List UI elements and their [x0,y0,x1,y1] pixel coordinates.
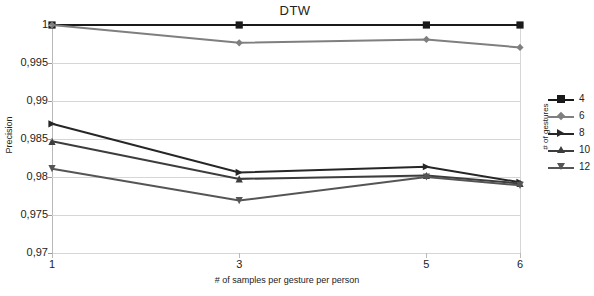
data-point-marker [48,120,55,127]
data-point-marker [516,21,523,28]
y-tick-label: 0,97 [0,246,48,258]
y-tick-mark [48,139,52,140]
plot-right-border [520,25,521,254]
x-tick-label: 6 [500,258,540,270]
series-line-6 [52,25,520,47]
legend-item-10[interactable]: 10 [548,143,594,159]
data-point-marker [236,39,243,46]
legend-item-8[interactable]: 8 [548,126,594,142]
y-tick-label: 0,995 [0,56,48,68]
data-point-marker [516,44,523,51]
y-tick-mark [48,63,52,64]
legend-label: 6 [579,110,585,121]
legend-marker [557,129,564,137]
legend-marker [557,95,565,103]
series-lines [52,25,520,254]
y-tick-label: 0,98 [0,170,48,182]
y-tick-label: 0,975 [0,208,48,220]
x-tick-label: 3 [219,258,259,270]
data-point-marker [423,36,430,43]
series-line-10 [52,141,520,183]
x-axis-title: # of samples per gesture per person [137,275,437,285]
y-axis-title: Precision [4,100,14,170]
data-point-marker [423,163,430,170]
series-line-12 [52,169,520,201]
y-tick-mark [48,25,52,26]
legend-item-6[interactable]: 6 [548,109,594,125]
legend-marker [557,112,565,120]
data-point-marker [423,21,430,28]
legend-label: 12 [579,161,590,172]
legend-label: 8 [579,127,585,138]
x-tick-mark [239,253,240,258]
x-tick-label: 5 [406,258,446,270]
legend-item-12[interactable]: 12 [548,160,594,176]
legend-marker [557,146,565,153]
x-tick-label: 1 [32,258,72,270]
x-tick-mark [426,253,427,258]
chart-title: DTW [230,3,360,18]
y-tick-mark [48,177,52,178]
legend-item-4[interactable]: 4 [548,92,594,108]
plot-area [52,25,520,253]
chart-container: DTW 10,9950,990,9850,980,9750,97 1356 # … [0,0,594,296]
x-tick-mark [52,253,53,258]
data-point-marker [236,21,243,28]
y-tick-mark [48,215,52,216]
y-tick-label: 1 [0,18,48,30]
series-line-8 [52,124,520,183]
data-point-marker [236,169,243,176]
legend-label: 10 [579,144,590,155]
x-tick-mark [520,253,521,258]
legend-label: 4 [579,93,585,104]
legend-marker [557,163,565,170]
legend: # of gestures 4681012 [530,92,592,184]
y-tick-mark [48,101,52,102]
